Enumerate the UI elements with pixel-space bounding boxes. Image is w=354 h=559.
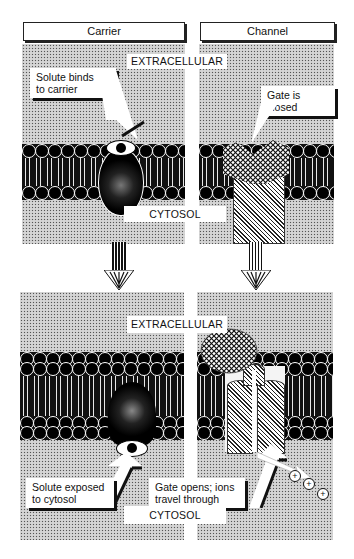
transition-arrow-channel (241, 242, 271, 290)
positive-ion: + (303, 478, 315, 490)
solute-exposed-callout: Solute exposed to cytosol (26, 478, 114, 508)
cytosol-label: CYTOSOL (124, 206, 226, 222)
carrier-title: Carrier (23, 22, 185, 41)
positive-ion: + (289, 470, 301, 482)
callout-line-2: travel through (155, 493, 239, 505)
channel-subunit-left (227, 380, 253, 454)
channel-subunit-right (257, 380, 285, 454)
callout-line-1: Solute exposed (32, 481, 108, 493)
callout-pointer (86, 70, 146, 146)
extracellular-label: EXTRACELLULAR (127, 54, 227, 69)
gate-opens-callout: Gate opens; ions travel through (149, 478, 245, 508)
channel-pore (252, 370, 256, 452)
callout-line-1: Gate opens; ions (155, 481, 239, 493)
transition-arrow-carrier (104, 242, 134, 290)
callout-line-2: to cytosol (32, 493, 108, 505)
extracellular-label: EXTRACELLULAR (127, 316, 227, 333)
cytosol-label: CYTOSOL (124, 506, 226, 524)
callout-pointer (243, 102, 283, 144)
closed-gate (223, 140, 289, 184)
open-gate (199, 326, 259, 376)
lipid-bilayer (20, 352, 184, 440)
ion-flow-arrow (257, 452, 311, 484)
channel-title: Channel (200, 22, 335, 41)
carrier-protein (108, 382, 156, 446)
positive-ion: + (317, 488, 329, 500)
